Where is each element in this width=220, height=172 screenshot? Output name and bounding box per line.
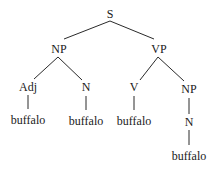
edge-vp-np <box>158 57 184 81</box>
edge-vp-v <box>140 57 158 80</box>
leaf-adj-buffalo: buffalo <box>11 114 45 126</box>
node-v: V <box>130 81 139 93</box>
node-np-object: NP <box>181 83 196 95</box>
node-np-subject: NP <box>51 43 66 55</box>
edge-s-vp <box>110 21 154 39</box>
leaf-n-buffalo: buffalo <box>69 115 103 127</box>
edge-np-n <box>58 57 82 80</box>
node-s: S <box>107 8 114 20</box>
node-vp: VP <box>151 43 166 55</box>
node-n-object: N <box>185 116 194 128</box>
edge-np-adj <box>34 57 58 79</box>
leaf-v-buffalo: buffalo <box>117 115 151 127</box>
node-n-subject: N <box>82 81 91 93</box>
leaf-n-object-buffalo: buffalo <box>172 150 206 162</box>
edge-s-np <box>64 21 110 39</box>
node-adj: Adj <box>19 81 37 93</box>
